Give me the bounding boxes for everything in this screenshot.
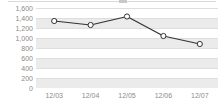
y-axis-tick-label: 1,000 [0, 35, 33, 42]
data-point-marker [197, 41, 202, 46]
data-point-marker [124, 14, 129, 19]
data-point-marker [88, 22, 93, 27]
x-axis-labels: 12/0312/0412/0512/0612/07 [0, 92, 224, 104]
y-axis-tick-label: 1,600 [0, 5, 33, 12]
data-point-marker [161, 33, 166, 38]
y-axis-tick-label: 600 [0, 55, 33, 62]
x-axis-tick-label: 12/04 [71, 92, 111, 100]
series-markers [52, 14, 203, 47]
series-line [54, 17, 200, 45]
series-line-group [36, 8, 218, 88]
plot-area [36, 8, 218, 88]
x-axis-tick-label: 12/06 [143, 92, 183, 100]
y-axis-tick-label: 200 [0, 75, 33, 82]
x-axis-tick-label: 12/05 [107, 92, 147, 100]
line-chart: 02004006008001,0001,2001,4001,600 12/031… [0, 0, 224, 106]
y-axis-tick-label: 400 [0, 65, 33, 72]
top-divider-nub [119, 0, 127, 3]
y-axis-tick-label: 800 [0, 45, 33, 52]
x-axis-tick-label: 12/07 [180, 92, 220, 100]
top-divider [8, 1, 216, 2]
y-axis-tick-label: 1,200 [0, 25, 33, 32]
y-axis-tick-label: 0 [0, 85, 33, 92]
y-axis-labels: 02004006008001,0001,2001,4001,600 [0, 0, 33, 106]
y-axis-tick-label: 1,400 [0, 15, 33, 22]
data-point-marker [52, 18, 57, 23]
x-axis-tick-label: 12/03 [34, 92, 74, 100]
